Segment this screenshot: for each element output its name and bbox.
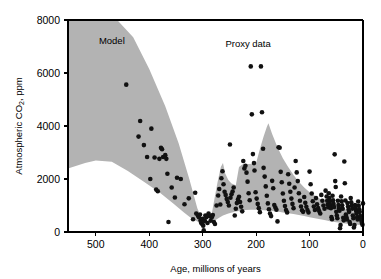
x-axis-title: Age, millions of years bbox=[170, 263, 261, 274]
data-point bbox=[343, 181, 348, 186]
data-point bbox=[186, 196, 191, 201]
data-point bbox=[255, 202, 260, 207]
y-tick-label: 0 bbox=[54, 226, 60, 238]
data-point bbox=[246, 191, 251, 196]
data-point bbox=[234, 206, 239, 211]
data-point bbox=[320, 198, 325, 203]
data-point bbox=[142, 143, 147, 148]
data-point bbox=[342, 159, 347, 164]
data-point bbox=[277, 145, 282, 150]
data-point bbox=[228, 142, 233, 147]
data-point bbox=[285, 210, 290, 215]
data-point bbox=[182, 202, 187, 207]
data-point bbox=[124, 82, 129, 87]
data-point bbox=[294, 170, 299, 175]
data-point bbox=[296, 179, 301, 184]
data-point bbox=[261, 166, 266, 171]
data-point bbox=[274, 207, 279, 212]
data-point bbox=[262, 174, 267, 179]
data-point bbox=[164, 157, 169, 162]
data-point bbox=[259, 64, 264, 69]
data-point bbox=[232, 213, 237, 218]
data-point bbox=[291, 206, 296, 211]
data-point bbox=[250, 112, 255, 117]
data-point bbox=[245, 179, 250, 184]
y-tick-label: 6000 bbox=[37, 67, 61, 79]
data-point bbox=[292, 185, 297, 190]
data-point bbox=[283, 204, 288, 209]
data-point bbox=[148, 177, 153, 182]
data-point bbox=[227, 203, 232, 208]
data-point bbox=[254, 196, 259, 201]
data-point bbox=[314, 196, 319, 201]
data-point bbox=[287, 181, 292, 186]
data-point bbox=[348, 222, 353, 227]
data-point bbox=[298, 198, 303, 203]
data-point bbox=[308, 182, 313, 187]
data-point bbox=[306, 210, 311, 215]
data-point bbox=[252, 168, 257, 173]
data-point bbox=[248, 64, 253, 69]
data-point bbox=[218, 202, 223, 207]
y-tick-label: 8000 bbox=[37, 14, 61, 26]
x-tick-label: 400 bbox=[140, 238, 158, 250]
data-point bbox=[247, 198, 252, 203]
data-point bbox=[335, 216, 340, 221]
data-point bbox=[301, 210, 306, 215]
data-point bbox=[213, 222, 218, 227]
x-tick-label: 200 bbox=[247, 238, 265, 250]
data-point bbox=[330, 217, 335, 222]
data-point bbox=[281, 191, 286, 196]
data-point bbox=[211, 213, 216, 218]
data-point bbox=[237, 194, 242, 199]
model-label: Model bbox=[99, 35, 125, 46]
data-point bbox=[253, 190, 258, 195]
data-point bbox=[303, 201, 308, 206]
data-point bbox=[265, 193, 270, 198]
proxy-label: Proxy data bbox=[225, 38, 271, 49]
data-point bbox=[251, 152, 256, 157]
data-point bbox=[352, 223, 357, 228]
data-point bbox=[260, 110, 265, 115]
data-point bbox=[160, 147, 165, 152]
data-point bbox=[332, 152, 337, 157]
data-point bbox=[288, 189, 293, 194]
data-point bbox=[333, 179, 338, 184]
data-point bbox=[269, 214, 274, 219]
data-point bbox=[270, 179, 275, 184]
data-point bbox=[318, 211, 323, 216]
data-point bbox=[231, 185, 236, 190]
data-point bbox=[290, 202, 295, 207]
data-point bbox=[220, 169, 225, 174]
data-point bbox=[241, 159, 246, 164]
data-point bbox=[348, 196, 353, 201]
data-point bbox=[293, 159, 298, 164]
data-point bbox=[169, 185, 174, 190]
data-point bbox=[356, 199, 361, 204]
data-point bbox=[198, 212, 203, 217]
data-point bbox=[240, 209, 245, 214]
data-point bbox=[173, 195, 178, 200]
data-point bbox=[278, 170, 283, 175]
data-point bbox=[230, 189, 235, 194]
data-point bbox=[244, 170, 249, 175]
data-point bbox=[193, 190, 198, 195]
data-point bbox=[149, 126, 154, 131]
data-point bbox=[271, 186, 276, 191]
data-point bbox=[266, 201, 271, 206]
data-point bbox=[155, 189, 160, 194]
data-point bbox=[297, 191, 302, 196]
data-point bbox=[152, 155, 157, 160]
data-point bbox=[330, 193, 335, 198]
data-point bbox=[338, 223, 343, 228]
y-tick-label: 2000 bbox=[37, 173, 61, 185]
data-point bbox=[217, 187, 222, 192]
data-point bbox=[256, 206, 261, 211]
data-point bbox=[223, 193, 228, 198]
data-point bbox=[302, 195, 307, 200]
data-point bbox=[261, 146, 266, 151]
y-tick-label: 4000 bbox=[37, 120, 61, 132]
data-point bbox=[315, 202, 320, 207]
data-point bbox=[221, 182, 226, 187]
data-point bbox=[286, 172, 291, 177]
